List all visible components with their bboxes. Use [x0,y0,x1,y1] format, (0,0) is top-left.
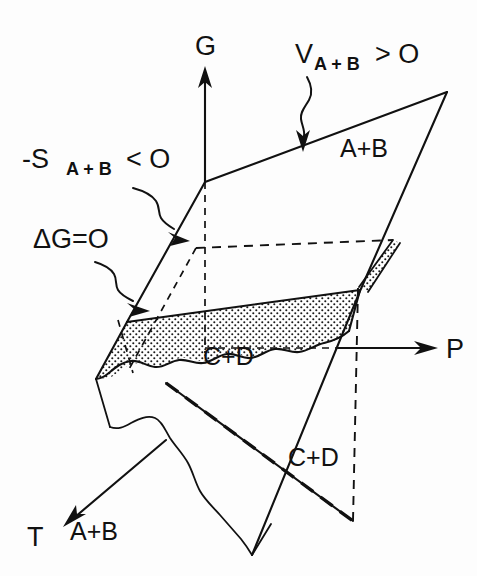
plane-label-lower-cd: C+D [288,443,339,471]
entropy-condition-symbol: -S [22,144,49,174]
lower-ab-left-edge [96,379,110,427]
entropy-condition-annotation: -S A + B < O [22,144,170,179]
volume-leader-line [301,77,312,136]
back-plane-horizontal-dashed [196,240,393,248]
axis-label-g: G [195,31,216,61]
figure-canvas: G P T V A + B > O -S A + B < O ΔG=O A+B … [0,0,477,576]
entropy-condition-relation: < O [126,144,170,174]
volume-leader-arrowhead-icon [296,130,310,152]
axis-label-p: P [446,334,464,364]
lower-ab-torn-edge [110,417,252,555]
axis-label-t: T [27,522,44,552]
diagram-svg: G P T V A + B > O -S A + B < O ΔG=O A+B … [0,0,477,576]
volume-condition-subscript: A + B [314,54,360,74]
right-drop-line-dashed [353,288,358,521]
plane-label-upper-ab: A+B [340,134,388,162]
upper-plane-top-edge [205,92,447,182]
volume-condition-annotation: V A + B > O [295,39,419,74]
equilibrium-leader-line [95,262,133,301]
callout-leaders [95,77,311,317]
plane-label-shaded-cd: C+D [203,342,254,370]
volume-condition-symbol: V [295,39,313,69]
t-axis-line [75,440,166,517]
text-labels: G P T V A + B > O -S A + B < O ΔG=O A+B … [22,31,464,552]
volume-condition-relation: > O [375,39,419,69]
entropy-leader-line [133,188,174,229]
equilibrium-condition-annotation: ΔG=O [33,224,109,254]
equilibrium-leader-arrowhead-icon [127,303,150,317]
entropy-condition-subscript: A + B [66,159,112,179]
plane-label-lower-ab: A+B [70,517,118,545]
upper-plane-right-edge [360,92,447,291]
